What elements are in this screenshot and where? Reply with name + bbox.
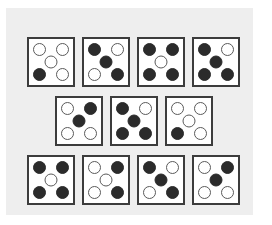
pip-tl-open (198, 161, 211, 174)
pip-c-open (45, 174, 58, 187)
pip-br-filled (111, 68, 124, 81)
pip-tl-filled (198, 43, 211, 56)
pip-br-open (221, 186, 234, 199)
pip-br-filled (111, 186, 124, 199)
card-10[interactable] (137, 155, 185, 205)
pip-tr-open (139, 102, 152, 115)
pip-bl-filled (143, 68, 156, 81)
card-3[interactable] (137, 37, 185, 87)
pip-tr-open (56, 43, 69, 56)
card-11[interactable] (192, 155, 240, 205)
pip-tr-open (166, 161, 179, 174)
pip-tr-filled (166, 43, 179, 56)
pip-tl-filled (143, 161, 156, 174)
pip-bl-filled (116, 127, 129, 140)
pip-c-filled (73, 115, 86, 128)
pip-c-filled (128, 115, 141, 128)
pip-tr-open (221, 43, 234, 56)
pip-br-filled (139, 127, 152, 140)
pip-c-filled (210, 56, 223, 69)
pip-bl-filled (171, 127, 184, 140)
pip-c-filled (210, 174, 223, 187)
pip-tl-open (33, 43, 46, 56)
card-7[interactable] (165, 96, 213, 146)
pip-br-open (194, 127, 207, 140)
pip-br-filled (221, 68, 234, 81)
pip-bl-open (61, 127, 74, 140)
card-5[interactable] (55, 96, 103, 146)
pip-c-filled (100, 56, 113, 69)
pip-c-filled (155, 174, 168, 187)
pip-br-open (56, 68, 69, 81)
card-9[interactable] (82, 155, 130, 205)
pip-bl-filled (33, 186, 46, 199)
pip-tr-filled (111, 161, 124, 174)
pip-c-open (155, 56, 168, 69)
pip-tr-filled (221, 161, 234, 174)
pip-tr-filled (56, 161, 69, 174)
pip-c-open (183, 115, 196, 128)
pip-tl-filled (143, 43, 156, 56)
pip-tl-open (61, 102, 74, 115)
card-row-top (27, 37, 240, 87)
card-4[interactable] (192, 37, 240, 87)
card-8[interactable] (27, 155, 75, 205)
pip-tl-filled (116, 102, 129, 115)
pip-br-filled (166, 186, 179, 199)
pip-bl-filled (33, 68, 46, 81)
card-2[interactable] (82, 37, 130, 87)
pip-br-open (84, 127, 97, 140)
card-row-middle (55, 96, 213, 146)
pip-tl-filled (33, 161, 46, 174)
pip-br-filled (56, 186, 69, 199)
pip-c-open (100, 174, 113, 187)
pip-bl-filled (198, 68, 211, 81)
pip-bl-open (143, 186, 156, 199)
pip-bl-open (88, 186, 101, 199)
card-6[interactable] (110, 96, 158, 146)
pip-tl-open (88, 161, 101, 174)
pip-tl-open (171, 102, 184, 115)
pip-tl-filled (88, 43, 101, 56)
pip-bl-open (88, 68, 101, 81)
figure-root (0, 0, 272, 225)
card-row-bottom (27, 155, 240, 205)
pip-br-filled (166, 68, 179, 81)
pip-tr-open (111, 43, 124, 56)
card-1[interactable] (27, 37, 75, 87)
figure-panel (6, 8, 253, 215)
pip-tr-filled (84, 102, 97, 115)
pip-tr-open (194, 102, 207, 115)
pip-bl-open (198, 186, 211, 199)
pip-c-open (45, 56, 58, 69)
